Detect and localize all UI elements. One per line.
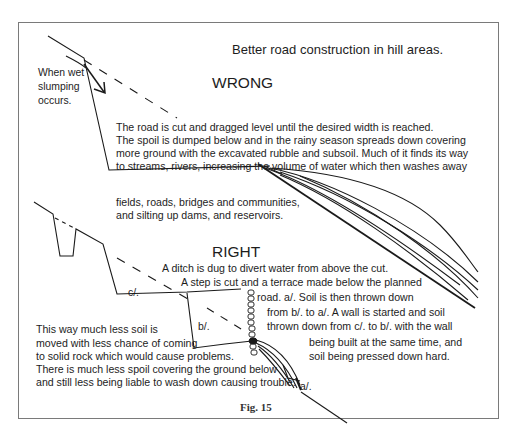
consequence-line: fields, roads, bridges and communities, (116, 196, 300, 209)
label-b: b/. (198, 320, 210, 333)
step-line: A ditch is dug to divert water from abov… (162, 262, 388, 275)
benefit-line: There is much less spoil covering the gr… (36, 363, 277, 376)
diagram-title: Better road construction in hill areas. (232, 43, 443, 56)
step-line: road. a/. Soil is then thrown down (257, 291, 414, 304)
step-line: from b/. to a/. A wall is started and so… (267, 306, 445, 319)
retaining-wall-icon (248, 290, 257, 355)
benefit-line: This way much less soil is (36, 323, 158, 336)
step-line: A step is cut and a terrace made below t… (181, 276, 422, 289)
slump-arrow-icon (84, 64, 105, 93)
slump-note-line: occurs. (38, 94, 72, 107)
figure-caption: Fig. 15 (240, 401, 272, 414)
description-line: The spoil is dumped below and in the rai… (116, 134, 466, 147)
consequence-line: and silting up dams, and reservoirs. (116, 209, 283, 222)
step-line: being built at the same time, and (309, 336, 462, 349)
benefit-line: to solid rock which would cause problems… (36, 350, 234, 363)
wrong-original-slope (84, 60, 177, 118)
wrong-heading: WRONG (212, 76, 273, 89)
right-heading: RIGHT (212, 245, 260, 258)
description-line: more ground with the excavated rubble an… (116, 147, 468, 160)
slump-note-line: slumping (38, 80, 80, 93)
benefit-line: and still less being liable to wash down… (36, 376, 296, 389)
benefit-line: moved with less chance of coming (36, 337, 197, 350)
description-line: The road is cut and dragged level until … (116, 121, 433, 134)
label-a: a/. (300, 380, 312, 393)
slump-note-line: When wet (38, 66, 84, 79)
label-c: c/. (128, 286, 139, 299)
step-line: soil being pressed down hard. (309, 350, 450, 363)
step-line: thrown down from c/. to b/. with the wal… (267, 320, 452, 333)
description-line: to streams, rivers, increasing the volum… (116, 160, 467, 173)
